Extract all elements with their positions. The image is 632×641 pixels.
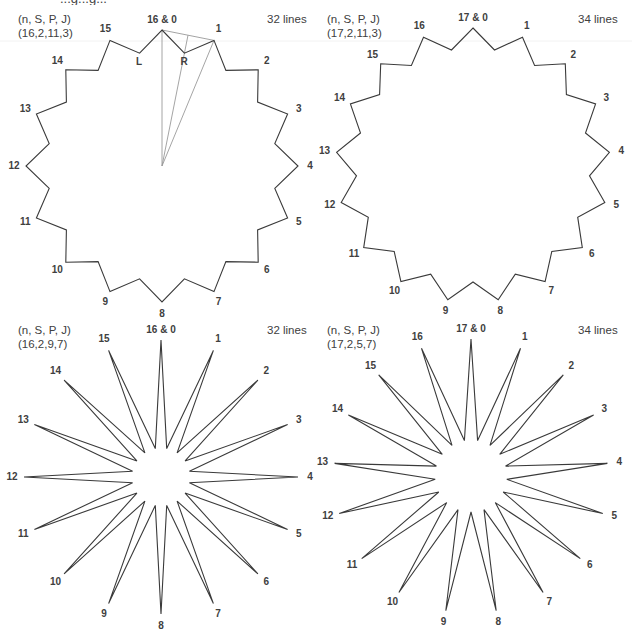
vertex-label: 9 <box>441 616 447 627</box>
vertex-labels: 17 & 012345678910111213141516 <box>317 323 623 628</box>
vertex-label: 7 <box>216 296 222 307</box>
vertex-label: 14 <box>332 403 344 414</box>
vertex-label: 10 <box>50 576 62 587</box>
panel-top-left: (n, S, P, J) (16,2,11,3) 32 lines 16 & 0… <box>8 13 313 319</box>
inner-vertex-label: R <box>180 56 188 67</box>
vertex-label: 17 & 0 <box>458 12 488 23</box>
diagram-canvas: (n, S, P, J) (16,2,11,3) 32 lines 16 & 0… <box>0 0 632 641</box>
line-count: 34 lines <box>578 324 618 336</box>
vertex-label: 2 <box>571 49 577 60</box>
vertex-label: 11 <box>18 528 29 539</box>
vertex-label: 13 <box>18 414 30 425</box>
vertex-label: 10 <box>389 285 401 296</box>
vertex-label: 9 <box>103 296 109 307</box>
vertex-label: 7 <box>549 285 555 296</box>
vertex-label: 15 <box>367 49 379 60</box>
vertex-label: 2 <box>264 365 270 376</box>
star-polygon-shape <box>24 340 298 614</box>
vertex-label: 17 & 0 <box>456 323 486 334</box>
vertex-label: 9 <box>101 608 107 619</box>
vertex-label: 16 & 0 <box>147 14 177 25</box>
vertex-label: 13 <box>317 456 329 467</box>
vertex-label: 11 <box>349 248 360 259</box>
inner-vertex-label: L <box>136 56 142 67</box>
panel-top-right: (n, S, P, J) (17,2,11,3) 34 lines 17 & 0… <box>319 12 625 317</box>
vertex-label: 15 <box>98 333 110 344</box>
vertex-label: 14 <box>52 55 64 66</box>
truncated-caption: ...g...g... <box>60 0 260 5</box>
vertex-label: 6 <box>587 559 593 570</box>
construction-line <box>162 40 214 166</box>
vertex-label: 12 <box>324 199 336 210</box>
vertex-label: 3 <box>604 92 610 103</box>
vertex-label: 8 <box>496 616 502 627</box>
vertex-label: 13 <box>20 103 32 114</box>
param-header: (n, S, P, J) <box>18 324 71 336</box>
vertex-label: 3 <box>296 103 302 114</box>
vertex-label: 1 <box>522 331 528 342</box>
vertex-label: 13 <box>319 145 331 156</box>
vertex-label: 12 <box>6 471 18 482</box>
vertex-label: 3 <box>602 403 608 414</box>
vertex-label: 11 <box>347 559 358 570</box>
vertex-label: 1 <box>215 333 221 344</box>
vertex-label: 8 <box>159 308 165 319</box>
star-polygon-shape <box>335 339 608 611</box>
construction-line <box>162 35 188 166</box>
vertex-label: 5 <box>614 199 620 210</box>
vertex-label: 7 <box>547 596 553 607</box>
vertex-label: 8 <box>498 305 504 316</box>
vertex-label: 4 <box>307 160 313 171</box>
vertex-label: 15 <box>365 360 377 371</box>
vertex-label: 16 <box>412 331 424 342</box>
line-count: 34 lines <box>578 13 618 25</box>
vertex-label: 12 <box>8 160 20 171</box>
vertex-label: 9 <box>443 305 449 316</box>
vertex-labels: 16 & 0123456789101112131415LR <box>8 14 313 319</box>
vertex-label: 4 <box>617 456 623 467</box>
vertex-label: 16 <box>414 20 426 31</box>
vertex-label: 7 <box>215 608 221 619</box>
vertex-label: 15 <box>100 23 112 34</box>
param-values: (16,2,9,7) <box>18 338 67 350</box>
param-values: (17,2,11,3) <box>327 27 382 39</box>
line-count: 32 lines <box>267 324 307 336</box>
vertex-label: 4 <box>307 471 313 482</box>
vertex-label: 5 <box>612 510 618 521</box>
param-header: (n, S, P, J) <box>18 13 71 25</box>
vertex-label: 6 <box>589 248 595 259</box>
vertex-label: 6 <box>264 576 270 587</box>
vertex-label: 2 <box>569 360 575 371</box>
vertex-labels: 17 & 012345678910111213141516 <box>319 12 625 317</box>
vertex-label: 2 <box>264 55 270 66</box>
param-values: (16,2,11,3) <box>18 27 73 39</box>
vertex-label: 12 <box>322 510 334 521</box>
star-polygon-shape <box>337 28 610 300</box>
param-values: (17,2,5,7) <box>327 338 376 350</box>
param-header: (n, S, P, J) <box>327 13 380 25</box>
vertex-label: 16 & 0 <box>146 324 176 335</box>
vertex-label: 5 <box>296 216 302 227</box>
diagram-stage: ...g...g... (n, S, P, J) (16,2,11,3) 32 … <box>0 0 632 641</box>
vertex-label: 4 <box>619 145 625 156</box>
vertex-label: 1 <box>524 20 530 31</box>
vertex-label: 3 <box>296 414 302 425</box>
panel-bottom-right: (n, S, P, J) (17,2,5,7) 34 lines 17 & 01… <box>317 323 623 628</box>
vertex-label: 14 <box>334 92 346 103</box>
vertex-label: 5 <box>296 528 302 539</box>
vertex-label: 11 <box>20 216 31 227</box>
vertex-label: 14 <box>50 365 62 376</box>
vertex-label: 1 <box>216 23 222 34</box>
vertex-label: 10 <box>52 264 64 275</box>
vertex-label: 10 <box>387 596 399 607</box>
construction-guides <box>162 30 214 166</box>
param-header: (n, S, P, J) <box>327 324 380 336</box>
line-count: 32 lines <box>267 13 307 25</box>
vertex-label: 6 <box>264 264 270 275</box>
panel-bottom-left: (n, S, P, J) (16,2,9,7) 32 lines 16 & 01… <box>6 324 313 631</box>
vertex-label: 8 <box>158 620 164 631</box>
